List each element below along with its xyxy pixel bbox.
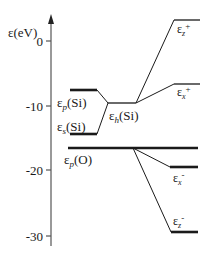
energy-axis (46, 14, 54, 246)
label-ez-plus: εz+ (177, 21, 190, 38)
label-ex-plus: εx+ (177, 84, 191, 101)
energy-level-diagram: ε(eV) 0 -10 -20 -30 εp(Si) εs(Si) εh(Si)… (0, 0, 210, 256)
label-ex-minus: εx- (173, 170, 185, 187)
label-eh-si: εh(Si) (109, 108, 138, 125)
tick-label-minus10: -10 (26, 99, 43, 114)
tick-label-minus20: -20 (26, 163, 43, 178)
label-ez-minus: εz- (173, 213, 184, 230)
label-ep-o: εp(O) (64, 152, 92, 169)
tick-label-0: 0 (37, 34, 44, 49)
tick-label-minus30: -30 (26, 229, 43, 244)
label-es-si: εs(Si) (57, 119, 85, 136)
axis-arrow-icon (48, 14, 54, 24)
label-ep-si: εp(Si) (57, 95, 86, 112)
axis-label: ε(eV) (8, 25, 37, 40)
connector-lines (97, 20, 174, 232)
